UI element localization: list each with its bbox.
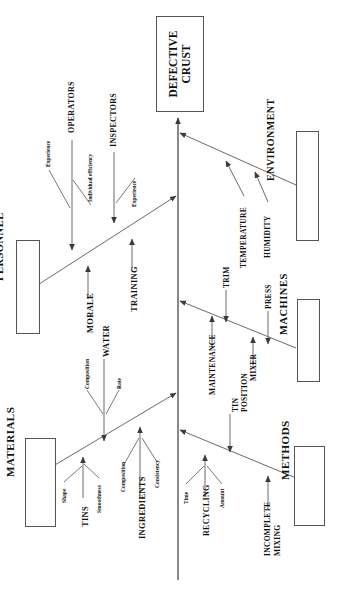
effect-label: DEFECTIVE CRUST (167, 30, 193, 97)
cause-label-maintenance: MAINTENANCE (209, 334, 217, 395)
cause-label-press: PRESS (265, 284, 273, 309)
subcause-label-recycling-time: Time (184, 492, 190, 504)
sub-rec-time (186, 466, 204, 484)
cause-label-operators: OPERATORS (68, 81, 76, 133)
cause-label-morale: MORALE (86, 293, 95, 333)
cause-label-incomplete-mixing-line2: MIXING (274, 525, 282, 556)
sub-op-experience (49, 170, 70, 208)
cause-label-inspectors: INSPECTORS (110, 93, 118, 147)
effect-label-line2: CRUST (180, 30, 193, 97)
sub-water-rate (106, 390, 119, 414)
category-label-methods: METHODS (280, 420, 292, 480)
category-label-environment: ENVIRONMENT (266, 98, 277, 181)
subcause-label-ingredients-composition: Composition (121, 462, 127, 492)
sub-ing-consistency (142, 438, 157, 462)
cause-label-water: WATER (102, 325, 111, 357)
category-box-environment[interactable]: ENVIRONMENT (296, 131, 319, 241)
subcause-label-operators-individual-efficiency: Individual efficiency (88, 154, 94, 202)
category-label-personnel: PERSONNEL (0, 213, 5, 282)
sub-rec-amount (207, 466, 222, 484)
subcause-label-tins-smoothness: Smoothness (97, 485, 103, 513)
category-box-machines[interactable]: MACHINES (297, 299, 320, 382)
cause-label-mixer: MIXER (250, 354, 258, 381)
bone-personnel (33, 196, 176, 288)
fishbone-diagram: DEFECTIVE CRUST ENVIRONMENT PERSONNEL MA… (0, 0, 346, 591)
category-label-machines: MACHINES (278, 273, 289, 335)
subcause-label-water-composition: Composition (85, 359, 91, 389)
cause-temperature (226, 161, 244, 196)
cause-label-trim: TRIM (223, 266, 231, 288)
category-box-personnel[interactable]: PERSONNEL (16, 240, 40, 334)
cause-label-tin-position-line2: POSITION (241, 373, 249, 412)
category-box-methods[interactable]: METHODS (294, 446, 325, 526)
subcause-label-water-rate: Rate (117, 378, 123, 389)
effect-box: DEFECTIVE CRUST (156, 16, 204, 112)
sub-water-composition (87, 390, 103, 414)
cause-label-humidity: HUMIDITY (264, 216, 272, 258)
category-label-materials: MATERIALS (5, 406, 17, 476)
subcause-label-ingredients-consistency: Consistency (155, 460, 161, 488)
subcause-label-recycling-amount: Amount (220, 489, 226, 508)
subcause-label-operators-experience: Experience (46, 141, 52, 167)
cause-label-recycling: RECYCLING (203, 484, 211, 536)
cause-label-temperature: TEMPERATURE (240, 207, 248, 268)
cause-label-tins: TINS (81, 506, 90, 527)
effect-label-line1: DEFECTIVE (167, 30, 180, 97)
cause-label-incomplete-mixing-line1: INCOMPLETE (264, 502, 272, 556)
bone-environment (180, 133, 296, 185)
cause-label-ingredients: INGREDIENTS (138, 476, 147, 539)
subcause-label-tins-shape: Shape (62, 489, 68, 503)
sub-tins-smoothness (84, 464, 99, 478)
cause-label-tin-position-line1: TIN (232, 398, 240, 412)
sub-tins-shape (64, 466, 82, 482)
category-box-materials[interactable]: MATERIALS (25, 438, 56, 527)
cause-label-training: TRAINING (130, 266, 139, 312)
subcause-label-inspectors-experience: Experience (132, 181, 138, 207)
